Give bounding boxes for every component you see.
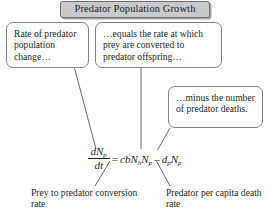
equation-lhs-numerator: dNp xyxy=(88,146,110,159)
equation-equals-sign: = xyxy=(112,153,118,165)
page-title: Predator Population Growth xyxy=(74,4,195,15)
equation-lhs-fraction: dNp dt xyxy=(88,146,110,172)
connector-rate-to-lhs xyxy=(75,68,97,149)
diagram-title-box: Predator Population Growth xyxy=(60,1,210,18)
caption-conversion-rate: Prey to predator conversion rate xyxy=(31,187,141,210)
caption-death-rate-text: Predator per capita death rate xyxy=(166,187,262,209)
caption-conversion-rate-text: Prey to predator conversion rate xyxy=(31,187,137,209)
equation-lhs-denominator: dt xyxy=(91,159,106,171)
callout-rate-of-change-text: Rate of predator population change… xyxy=(14,28,76,62)
equation-term-death: dpNp xyxy=(162,153,182,165)
callout-minus-deaths-text: …minus the number of predator deaths. xyxy=(176,92,255,114)
caption-death-rate: Predator per capita death rate xyxy=(166,187,269,210)
predator-population-growth-diagram: Predator Population Growth Rate of preda… xyxy=(0,0,269,217)
equation: dNp dt = cbNhNp – dpNp xyxy=(0,145,269,172)
callout-rate-of-change: Rate of predator population change… xyxy=(6,22,89,68)
equation-minus-sign: – xyxy=(154,153,160,165)
equation-term-growth: cbNhNp xyxy=(120,153,152,165)
callout-equals-rate: …equals the rate at which prey are conve… xyxy=(95,22,222,68)
callout-minus-deaths: …minus the number of predator deaths. xyxy=(168,86,263,128)
callout-equals-rate-text: …equals the rate at which prey are conve… xyxy=(103,28,203,62)
